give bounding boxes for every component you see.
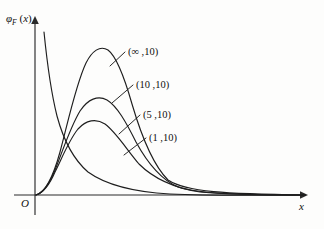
leader-line-5-10 bbox=[119, 115, 140, 134]
curve-1-10 bbox=[44, 32, 305, 195]
y-axis-arrowhead bbox=[31, 16, 39, 24]
y-axis-label-arg: (x) bbox=[17, 12, 32, 25]
x-axis-label: x bbox=[298, 200, 304, 212]
leader-line-10-10 bbox=[112, 85, 133, 103]
legend-label-10-10: (10 ,10) bbox=[136, 79, 170, 91]
origin-label: O bbox=[21, 197, 29, 209]
legend-label-1-10: (1 ,10) bbox=[149, 132, 177, 144]
legend-label-5-10: (5 ,10) bbox=[143, 109, 171, 121]
curve-inf-10 bbox=[36, 48, 305, 195]
figure-canvas: φF (x) O x (∞ ,10) (10 ,10) (5 ,10) (1 ,… bbox=[0, 0, 324, 229]
y-axis-label: φF (x) bbox=[6, 12, 32, 27]
legend-label-inf-10: (∞ ,10) bbox=[128, 46, 159, 58]
plot-svg: φF (x) O x (∞ ,10) (10 ,10) (5 ,10) (1 ,… bbox=[0, 0, 324, 229]
